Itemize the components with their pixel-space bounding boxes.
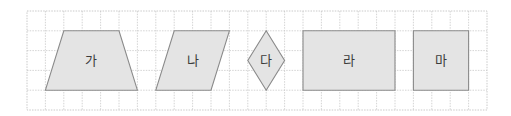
shape-label: 가 [85, 53, 97, 68]
shape-ma-square: 마 [413, 31, 468, 90]
shape-ga-trapezoid: 가 [45, 31, 137, 90]
shape-ra-rectangle: 라 [303, 31, 395, 90]
shape-na-parallelogram: 나 [156, 31, 230, 90]
shape-label: 라 [343, 53, 355, 68]
shape-label: 마 [435, 53, 447, 68]
grid-diagram: 가나다라마 [0, 0, 511, 116]
shape-label: 나 [187, 53, 199, 68]
shapes: 가나다라마 [45, 31, 468, 90]
shape-da-rhombus: 다 [248, 31, 285, 90]
shape-label: 다 [260, 53, 272, 68]
